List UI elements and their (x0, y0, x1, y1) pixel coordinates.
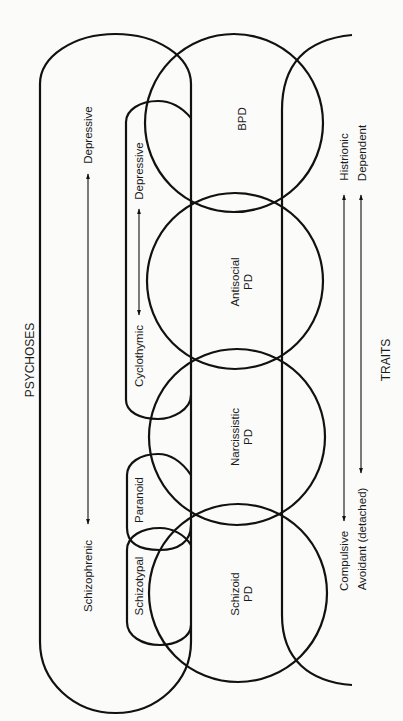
bpd-circle (145, 34, 323, 212)
schizophrenic-label: Schizophrenic (82, 540, 94, 612)
schizotypal-label: Schizotypal (133, 557, 145, 616)
personality-disorder-spectrum-diagram: PSYCHOSES TRAITS Depressive Schizophreni… (0, 0, 403, 721)
psychoses-capsule (40, 34, 191, 713)
traits-label: TRAITS (379, 339, 393, 382)
dependent-label: Dependent (356, 124, 368, 181)
antisocial-pd-label: PD (242, 274, 254, 290)
paranoid-label: Paranoid (133, 477, 145, 523)
narcissistic-pd-label: PD (242, 429, 254, 445)
histrionic-label: Histrionic (338, 133, 350, 181)
schizoid-label: Schizoid (229, 572, 241, 615)
narcissistic-label: Narcissistic (229, 408, 241, 466)
bpd-label: BPD (236, 107, 248, 131)
avoidant-detached-label: Avoidant (detached) (356, 487, 368, 590)
cyclothymic-depressive-label: Depressive (133, 142, 145, 200)
cyclothymic-label: Cyclothymic (133, 325, 145, 387)
compulsive-label: Compulsive (338, 531, 350, 591)
antisocial-label: Antisocial (229, 257, 241, 306)
psychosis-depressive-label: Depressive (82, 106, 94, 164)
psychoses-label: PSYCHOSES (23, 323, 37, 398)
schizoid-pd-label: PD (242, 586, 254, 602)
